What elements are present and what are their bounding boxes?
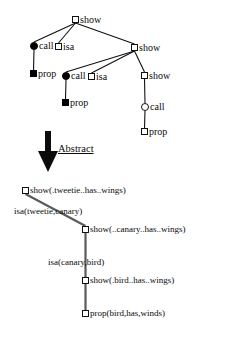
down-arrow-icon — [36, 131, 60, 173]
tree-node-label: prop — [149, 127, 167, 137]
tree-node-propbirdhaswinds-a4 — [82, 310, 89, 317]
tree-node-show-n8 — [141, 72, 148, 79]
abstract-edge-label: isa(canary,bird) — [48, 258, 104, 267]
tree-node-label: show(.bird..has..wings) — [90, 276, 174, 285]
tree-node-label: call — [150, 102, 164, 112]
tree-node-showcanaryhaswings-a2 — [82, 226, 89, 233]
tree-node-label: isa — [63, 42, 74, 52]
tree-node-label: prop — [38, 69, 56, 79]
tree-node-prop-n5 — [30, 70, 37, 77]
tree-edge — [76, 23, 135, 44]
tree-node-label: prop(bird,has,winds) — [90, 309, 165, 318]
tree-node-isa-n3 — [55, 43, 62, 50]
tree-edge — [145, 111, 146, 128]
tree-edge — [135, 51, 145, 72]
tree-node-call-n10 — [141, 103, 149, 111]
tree-node-show-n4 — [131, 44, 138, 51]
tree-edges-layer — [0, 0, 227, 341]
tree-node-label: call — [39, 41, 53, 51]
tree-node-label: show — [139, 43, 160, 53]
abstract-edge-label: isa(tweetie,canary) — [14, 207, 82, 216]
tree-node-label: show(..canary..has..wings) — [90, 225, 185, 234]
tree-node-label: call — [71, 71, 85, 81]
tree-node-isa-n7 — [88, 73, 95, 80]
tree-node-label: prop — [70, 98, 88, 108]
abstract-transform-label: Abstract — [58, 143, 94, 154]
tree-node-label: show — [80, 15, 101, 25]
tree-edge — [34, 50, 35, 70]
tree-node-prop-n11 — [141, 128, 148, 135]
tree-edge — [59, 23, 76, 43]
tree-node-label: show(.tweetie..has..wings) — [30, 186, 126, 195]
tree-node-call-n2 — [30, 42, 38, 50]
figure-canvas: showcallisashowpropcallisashowpropcallpr… — [0, 0, 227, 341]
tree-edge — [145, 79, 146, 103]
tree-node-show-n1 — [72, 16, 79, 23]
tree-node-label: show — [149, 71, 170, 81]
tree-node-showtweetiehaswings-a1 — [22, 187, 29, 194]
tree-node-prop-n9 — [62, 99, 69, 106]
tree-node-call-n6 — [62, 72, 70, 80]
tree-edge — [66, 80, 67, 99]
tree-node-showbirdhaswings-a3 — [82, 277, 89, 284]
tree-node-label: isa — [96, 72, 107, 82]
